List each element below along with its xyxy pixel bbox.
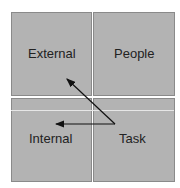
arrow-task-to-external: [67, 79, 115, 124]
arrows-layer: [0, 0, 180, 188]
